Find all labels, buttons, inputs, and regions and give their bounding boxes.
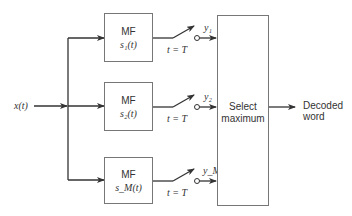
- mf-signal: s₁(t): [120, 39, 137, 50]
- output-label-line2: word: [303, 111, 325, 122]
- mf-title: MF: [121, 26, 135, 37]
- sampling-label-2: t = T: [167, 113, 187, 124]
- output-y2-label: y₂: [204, 91, 212, 102]
- matched-filter-1: MF s₁(t): [104, 13, 153, 62]
- diagram-connections: [0, 0, 352, 216]
- mf-title: MF: [121, 169, 135, 180]
- select-maximum-block: Select maximum: [217, 15, 269, 206]
- selector-line1: Select: [218, 101, 268, 112]
- matched-filter-m: MF s_M(t): [104, 157, 153, 204]
- selector-line2: maximum: [218, 113, 268, 124]
- mf-title: MF: [121, 95, 135, 106]
- sampling-label-m: t = T: [167, 187, 187, 198]
- matched-filter-2: MF s₂(t): [104, 82, 153, 131]
- mf-signal: s_M(t): [115, 182, 142, 193]
- mf-signal: s₂(t): [120, 108, 137, 119]
- sampling-label-1: t = T: [167, 44, 187, 55]
- output-label-line1: Decoded: [303, 100, 343, 111]
- output-y1-label: y₁: [204, 22, 212, 33]
- input-signal-label: x(t): [14, 100, 28, 111]
